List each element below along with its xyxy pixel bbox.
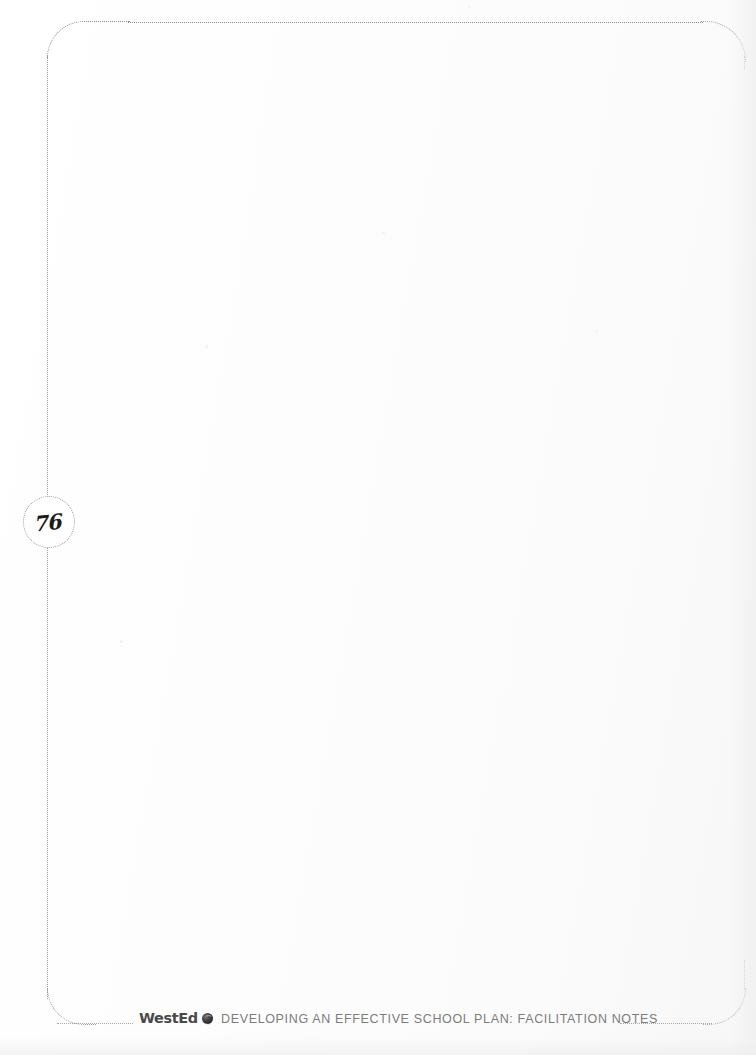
frame-corner-top-right: [701, 21, 746, 62]
wested-wordmark: WestEd: [139, 1011, 198, 1026]
page-number-medallion: 76: [23, 496, 75, 548]
page-number: 76: [35, 510, 63, 534]
scan-speck: [468, 6, 471, 8]
page-footer: WestEd DEVELOPING AN EFFECTIVE SCHOOL PL…: [0, 1008, 756, 1038]
page-content-area: [60, 45, 700, 980]
scan-edge-bottom: [0, 1037, 756, 1055]
document-page: 76 WestEd DEVELOPING AN EFFECTIVE SCHOOL…: [0, 0, 756, 1055]
footer-title: DEVELOPING AN EFFECTIVE SCHOOL PLAN: FAC…: [221, 1013, 658, 1026]
footer-rule-right: [620, 1023, 712, 1024]
globe-icon: [202, 1013, 213, 1024]
footer-rule-left: [57, 1023, 133, 1024]
frame-border-right-bottom: [744, 960, 745, 990]
frame-border-top: [128, 22, 703, 23]
frame-border-right-stub: [744, 56, 745, 70]
wested-logo: WestEd: [139, 1011, 213, 1026]
scan-edge-right: [730, 0, 756, 1055]
